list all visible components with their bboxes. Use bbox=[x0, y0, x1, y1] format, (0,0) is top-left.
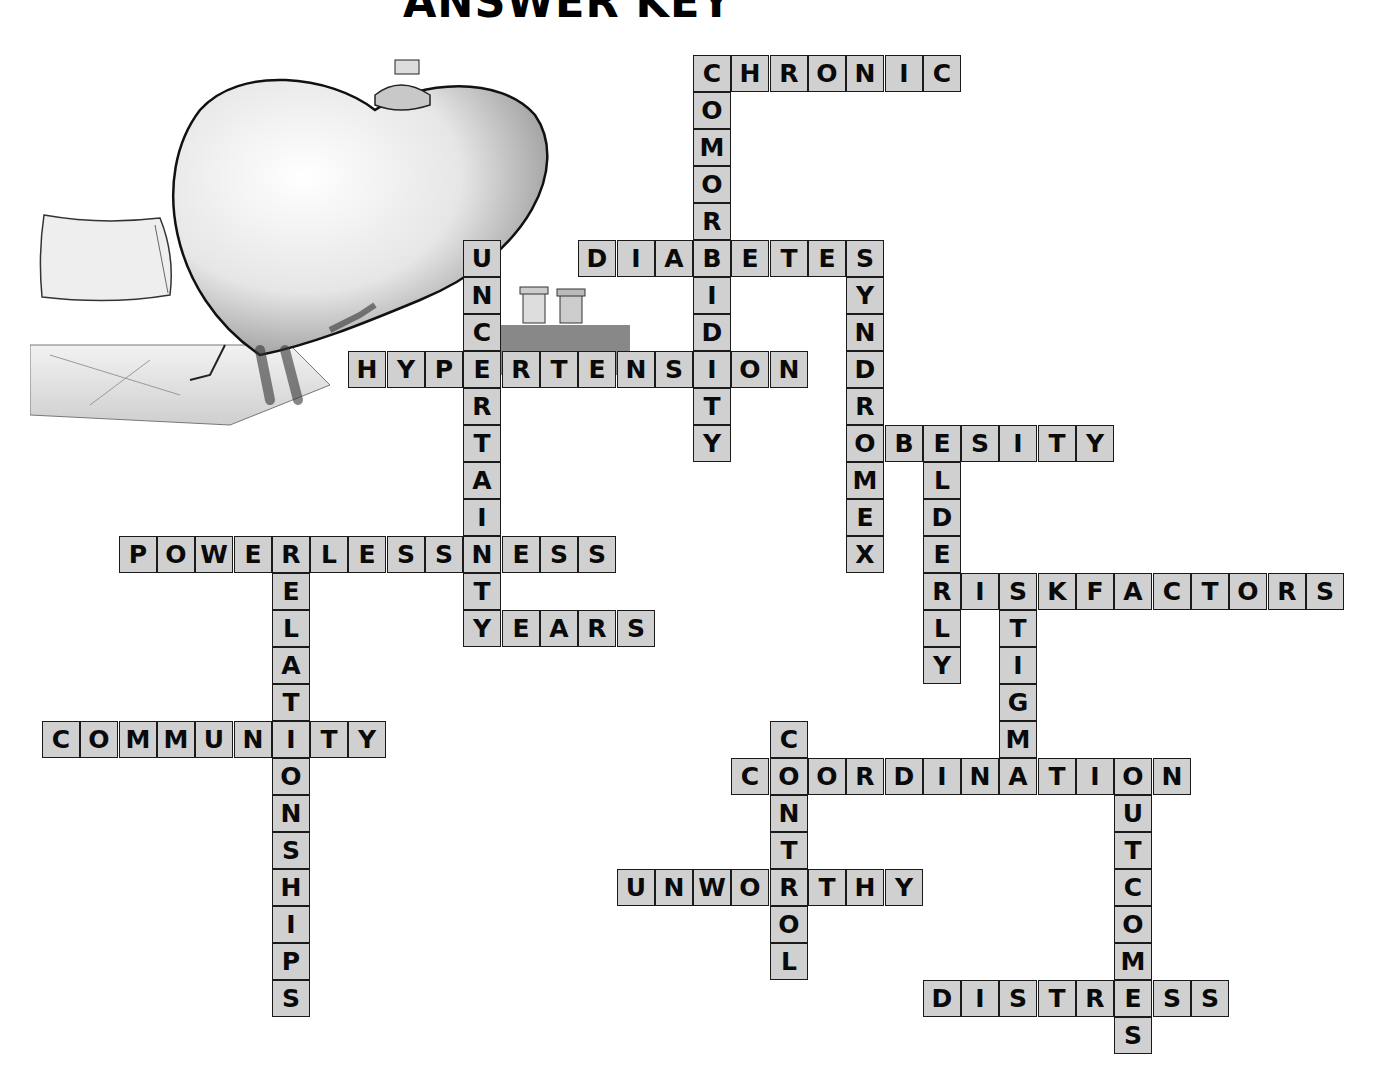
crossword-cell: R bbox=[1268, 573, 1306, 610]
crossword-cell: L bbox=[770, 943, 808, 980]
crossword-cell: T bbox=[1038, 758, 1076, 795]
crossword-cell: W bbox=[693, 869, 731, 906]
crossword-cell: U bbox=[195, 721, 233, 758]
crossword-cell: U bbox=[617, 869, 655, 906]
crossword-cell: B bbox=[885, 425, 923, 462]
crossword-cell: O bbox=[80, 721, 118, 758]
crossword-cell: I bbox=[463, 499, 501, 536]
crossword-cell: C bbox=[731, 758, 769, 795]
crossword-cell: N bbox=[961, 758, 999, 795]
crossword-cell: O bbox=[1229, 573, 1267, 610]
crossword-cell: I bbox=[272, 906, 310, 943]
crossword-cell: O bbox=[693, 92, 731, 129]
crossword-cell: I bbox=[1076, 758, 1114, 795]
crossword-cell: C bbox=[463, 314, 501, 351]
crossword-cell: R bbox=[846, 758, 884, 795]
crossword-cell: R bbox=[770, 55, 808, 92]
crossword-cell: T bbox=[463, 573, 501, 610]
crossword-cell: R bbox=[578, 610, 616, 647]
crossword-cell: E bbox=[502, 610, 540, 647]
crossword-cell: O bbox=[846, 425, 884, 462]
crossword-cell: T bbox=[770, 832, 808, 869]
crossword-cell: E bbox=[846, 499, 884, 536]
crossword-cell: E bbox=[1114, 980, 1152, 1017]
crossword-cell: T bbox=[463, 425, 501, 462]
crossword-cell: F bbox=[1076, 573, 1114, 610]
crossword-cell: S bbox=[846, 240, 884, 277]
crossword-cell: E bbox=[234, 536, 272, 573]
crossword-cell: A bbox=[1114, 573, 1152, 610]
crossword-cell: S bbox=[655, 351, 693, 388]
crossword-cell: O bbox=[770, 906, 808, 943]
crossword-cell: O bbox=[731, 869, 769, 906]
crossword-cell: N bbox=[463, 536, 501, 573]
crossword-cell: T bbox=[1191, 573, 1229, 610]
crossword-cell: I bbox=[885, 55, 923, 92]
crossword-cell: E bbox=[923, 425, 961, 462]
crossword-cell: D bbox=[846, 351, 884, 388]
crossword-cell: N bbox=[846, 55, 884, 92]
crossword-cell: Y bbox=[387, 351, 425, 388]
crossword-cell: Y bbox=[348, 721, 386, 758]
crossword-cell: M bbox=[157, 721, 195, 758]
crossword-cell: M bbox=[119, 721, 157, 758]
crossword-cell: A bbox=[540, 610, 578, 647]
crossword-cell: M bbox=[999, 721, 1037, 758]
crossword-cell: N bbox=[272, 795, 310, 832]
crossword-cell: A bbox=[272, 647, 310, 684]
crossword-cell: I bbox=[999, 425, 1037, 462]
crossword-cell: O bbox=[808, 758, 846, 795]
crossword-cell: N bbox=[770, 795, 808, 832]
crossword-cell: R bbox=[463, 388, 501, 425]
crossword-cell: P bbox=[272, 943, 310, 980]
crossword-cell: O bbox=[693, 166, 731, 203]
crossword-cell: S bbox=[540, 536, 578, 573]
crossword-cell: S bbox=[1153, 980, 1191, 1017]
crossword-cell: S bbox=[387, 536, 425, 573]
crossword-cell: E bbox=[463, 351, 501, 388]
crossword-cell: G bbox=[999, 684, 1037, 721]
crossword-cell: T bbox=[770, 240, 808, 277]
crossword-cell: A bbox=[463, 462, 501, 499]
crossword-cell: M bbox=[693, 129, 731, 166]
crossword-cell: H bbox=[272, 869, 310, 906]
crossword-cell: R bbox=[923, 573, 961, 610]
crossword-cell: T bbox=[808, 869, 846, 906]
crossword-cell: Y bbox=[693, 425, 731, 462]
crossword-cell: T bbox=[1038, 980, 1076, 1017]
crossword-cell: Y bbox=[923, 647, 961, 684]
crossword-cell: E bbox=[923, 536, 961, 573]
crossword-cell: E bbox=[502, 536, 540, 573]
crossword-cell: S bbox=[1114, 1017, 1152, 1054]
crossword-cell: A bbox=[999, 758, 1037, 795]
crossword-cell: C bbox=[693, 55, 731, 92]
crossword-cell: K bbox=[1038, 573, 1076, 610]
crossword-cell: D bbox=[923, 980, 961, 1017]
crossword-cell: E bbox=[808, 240, 846, 277]
crossword-cell: O bbox=[1114, 758, 1152, 795]
crossword-cell: H bbox=[348, 351, 386, 388]
crossword-cell: S bbox=[999, 980, 1037, 1017]
crossword-cell: I bbox=[961, 980, 999, 1017]
crossword-cell: P bbox=[119, 536, 157, 573]
crossword-cell: Y bbox=[846, 277, 884, 314]
crossword-cell: T bbox=[693, 388, 731, 425]
crossword-cell: S bbox=[617, 610, 655, 647]
crossword-cell: P bbox=[425, 351, 463, 388]
crossword-grid: CHRONICOMORBIDITYDIAETESUNCERTAINTYYNDRO… bbox=[0, 0, 1387, 1082]
crossword-cell: T bbox=[999, 610, 1037, 647]
crossword-cell: S bbox=[999, 573, 1037, 610]
crossword-cell: R bbox=[1076, 980, 1114, 1017]
crossword-cell: N bbox=[655, 869, 693, 906]
crossword-cell: A bbox=[655, 240, 693, 277]
crossword-cell: E bbox=[272, 573, 310, 610]
crossword-cell: I bbox=[272, 721, 310, 758]
crossword-cell: L bbox=[310, 536, 348, 573]
crossword-cell: O bbox=[808, 55, 846, 92]
crossword-cell: I bbox=[693, 277, 731, 314]
crossword-cell: N bbox=[770, 351, 808, 388]
crossword-cell: S bbox=[1191, 980, 1229, 1017]
crossword-cell: O bbox=[731, 351, 769, 388]
crossword-cell: R bbox=[693, 203, 731, 240]
crossword-cell: W bbox=[195, 536, 233, 573]
